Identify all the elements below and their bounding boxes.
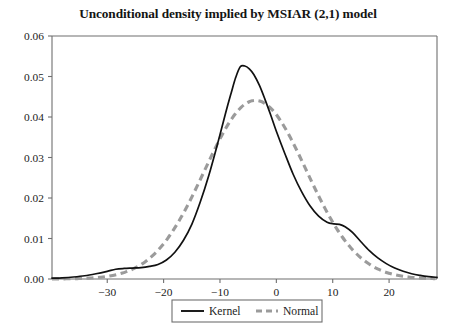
x-tick-label: 0 [273,286,279,298]
axis-tick-marks [48,36,389,283]
x-tick-label: 10 [327,286,339,298]
y-axis-tick-labels: 0.000.010.020.030.040.050.06 [24,30,44,285]
x-tick-label: −20 [155,286,173,298]
plot-canvas: 0.000.010.020.030.040.050.06 −30−20−1001… [0,0,456,327]
legend-label-normal: Normal [283,305,318,318]
y-tick-label: 0.03 [24,152,44,164]
x-tick-label: 20 [383,286,395,298]
chart-legend[interactable]: Kernel Normal [172,300,322,322]
x-tick-label: −30 [98,286,116,298]
series-line-normal [52,100,435,279]
y-tick-label: 0.00 [24,273,44,285]
x-tick-label: −10 [211,286,229,298]
y-tick-label: 0.06 [24,30,44,42]
chart-figure: Unconditional density implied by MSIAR (… [0,0,456,327]
y-tick-label: 0.01 [24,233,44,245]
y-tick-label: 0.05 [24,71,44,83]
y-tick-label: 0.02 [24,192,44,204]
legend-label-kernel: Kernel [209,305,241,318]
x-axis-tick-labels: −30−20−1001020 [98,286,395,298]
y-tick-label: 0.04 [24,111,44,123]
series-line-kernel [52,66,437,279]
